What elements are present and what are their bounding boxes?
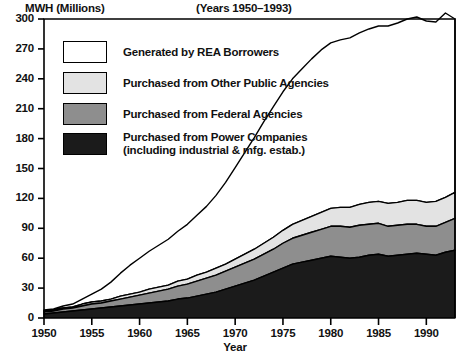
legend-swatch-federal-agencies <box>63 103 107 125</box>
y-tick-label: 90 <box>0 221 34 233</box>
y-tick-label: 210 <box>0 102 34 114</box>
legend-item-rea-generated: Generated by REA Borrowers <box>63 41 279 63</box>
y-tick-label: 60 <box>0 251 34 263</box>
legend-label-other-public-agencies: Purchased from Other Public Agencies <box>123 77 329 90</box>
legend-label-rea-generated: Generated by REA Borrowers <box>123 46 279 59</box>
y-tick-label: 30 <box>0 281 34 293</box>
y-tick-label: 120 <box>0 191 34 203</box>
legend-item-power-companies: Purchased from Power Companies (includin… <box>63 131 307 156</box>
y-tick-label: 0 <box>0 311 34 323</box>
x-tick-label: 1960 <box>118 327 162 339</box>
x-tick-label: 1955 <box>70 327 114 339</box>
y-tick-label: 150 <box>0 162 34 174</box>
legend-swatch-other-public-agencies <box>63 72 107 94</box>
legend-label-federal-agencies: Purchased from Federal Agencies <box>123 108 302 121</box>
x-tick-label: 1970 <box>213 327 257 339</box>
y-tick-label: 270 <box>0 42 34 54</box>
legend-swatch-rea-generated <box>63 41 107 63</box>
x-tick-label: 1975 <box>261 327 305 339</box>
x-tick-label: 1985 <box>357 327 401 339</box>
legend-label-power-companies-line1: Purchased from Power Companies <box>123 131 307 144</box>
y-tick-label: 180 <box>0 132 34 144</box>
x-tick-label: 1980 <box>309 327 353 339</box>
chart-container: MWH (Millions) (Years 1950–1993) Year 03… <box>0 0 470 361</box>
x-tick-label: 1950 <box>22 327 66 339</box>
y-tick-label: 240 <box>0 72 34 84</box>
y-tick-label: 300 <box>0 12 34 24</box>
legend-item-federal-agencies: Purchased from Federal Agencies <box>63 103 302 125</box>
legend-label-power-companies: Purchased from Power Companies (includin… <box>123 131 307 156</box>
x-tick-label: 1965 <box>165 327 209 339</box>
legend-swatch-power-companies <box>63 133 107 155</box>
x-tick-label: 1990 <box>404 327 448 339</box>
legend-item-other-public-agencies: Purchased from Other Public Agencies <box>63 72 329 94</box>
legend-label-power-companies-line2: (including industrial & mfg. estab.) <box>123 144 307 157</box>
